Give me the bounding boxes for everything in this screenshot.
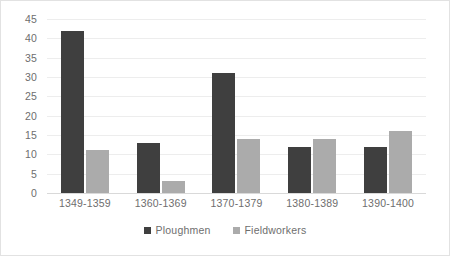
bar-ploughmen: [61, 31, 84, 193]
y-axis-tick-label: 10: [25, 148, 37, 160]
chart-legend: PloughmenFieldworkers: [1, 224, 449, 236]
legend-swatch-icon: [144, 227, 151, 234]
x-axis-tick-label: 1390-1400: [350, 197, 426, 209]
y-axis-tick-label: 35: [25, 52, 37, 64]
bar-group: [47, 19, 123, 193]
bar-chart: 454035302520151050 1349-13591360-1369137…: [0, 0, 450, 256]
bar-group: [123, 19, 199, 193]
plot-area: [47, 19, 426, 193]
bar-ploughmen: [137, 143, 160, 193]
legend-label: Ploughmen: [156, 224, 211, 236]
x-axis-tick-label: 1380-1389: [274, 197, 350, 209]
bar-fieldworkers: [162, 181, 185, 193]
bar-fieldworkers: [86, 150, 109, 193]
x-axis: 1349-13591360-13691370-13791380-13891390…: [47, 197, 426, 209]
bar-fieldworkers: [237, 139, 260, 193]
bar-ploughmen: [212, 73, 235, 193]
y-axis-tick-label: 0: [31, 187, 37, 199]
bar-group: [274, 19, 350, 193]
bar-group: [350, 19, 426, 193]
bar-fieldworkers: [389, 131, 412, 193]
y-axis-tick-label: 45: [25, 13, 37, 25]
bar-fieldworkers: [313, 139, 336, 193]
legend-item-fieldworkers[interactable]: Fieldworkers: [233, 224, 307, 236]
legend-label: Fieldworkers: [245, 224, 307, 236]
y-axis: 454035302520151050: [1, 19, 43, 193]
x-axis-tick-label: 1349-1359: [47, 197, 123, 209]
x-axis-tick-label: 1370-1379: [199, 197, 275, 209]
bar-group: [199, 19, 275, 193]
legend-item-ploughmen[interactable]: Ploughmen: [144, 224, 211, 236]
axis-baseline: [47, 193, 426, 194]
y-axis-tick-label: 25: [25, 90, 37, 102]
y-axis-tick-label: 5: [31, 168, 37, 180]
legend-swatch-icon: [233, 227, 240, 234]
bar-ploughmen: [288, 147, 311, 193]
y-axis-tick-label: 30: [25, 71, 37, 83]
bar-ploughmen: [364, 147, 387, 193]
y-axis-tick-label: 20: [25, 110, 37, 122]
x-axis-tick-label: 1360-1369: [123, 197, 199, 209]
bar-groups: [47, 19, 426, 193]
y-axis-tick-label: 15: [25, 129, 37, 141]
y-axis-tick-label: 40: [25, 32, 37, 44]
